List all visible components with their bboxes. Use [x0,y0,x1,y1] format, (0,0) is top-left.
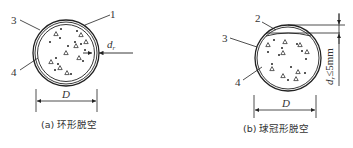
steel-tube-outer [255,25,321,91]
caption-b: (b) 球冠形脱空 [243,123,309,134]
label-4: 4 [11,66,17,78]
crown-void-chord [266,33,311,36]
gap-label-dr: dr [107,38,116,52]
label-3: 3 [11,14,17,26]
concrete-aggregate [266,39,309,81]
gap-constraint-label: dr≤5mm [323,48,337,85]
diameter-label-b: D [281,97,290,109]
label-2: 2 [255,12,261,24]
caption-a: (a) 环形脱空 [41,119,97,130]
label-4: 4 [235,76,241,88]
svg-text:dr≤5mm: dr≤5mm [323,48,337,85]
diameter-label-a: D [61,88,70,100]
diagram-canvas: 3 1 4 dr D (a) 环形脱空 [0,0,353,148]
figure-a-annular-void: 3 1 4 dr D (a) 环形脱空 [11,8,133,130]
figure-b-crown-void: 2 3 4 dr≤5mm D (b) 球冠形脱空 [222,12,345,134]
label-3: 3 [222,32,228,44]
label-1: 1 [110,8,116,20]
concrete-aggregate [49,28,88,75]
